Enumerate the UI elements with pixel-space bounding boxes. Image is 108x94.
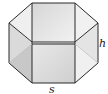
hexagonal-prism-diagram: h s — [0, 0, 108, 94]
front-face — [32, 43, 75, 83]
height-label: h — [99, 37, 106, 50]
top-back-face — [32, 3, 75, 42]
side-label: s — [49, 83, 55, 94]
